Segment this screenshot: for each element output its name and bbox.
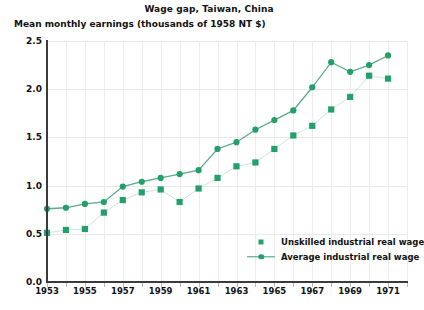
x-tick-mark (47, 283, 48, 287)
x-tick-label: 1955 (73, 286, 97, 296)
x-tick-mark (388, 283, 389, 287)
legend-line-circle-marker-icon (247, 251, 275, 263)
data-point-circle (177, 171, 183, 177)
data-point-circle (290, 107, 296, 113)
data-point-square (63, 227, 69, 233)
series-1 (44, 73, 391, 236)
legend-item-average[interactable]: Average industrial real wage (247, 249, 424, 264)
legend-label-average: Average industrial real wage (281, 252, 419, 262)
x-tick-mark (180, 283, 181, 287)
chart-legend: Unskilled industrial real wage Average i… (247, 234, 424, 264)
x-tick-mark (85, 283, 86, 287)
data-point-square (385, 76, 391, 82)
data-point-square (158, 186, 164, 192)
series-line (47, 55, 388, 208)
data-point-circle (328, 59, 334, 65)
data-point-square (309, 123, 315, 129)
legend-square-marker-icon (247, 236, 275, 248)
data-point-square (120, 197, 126, 203)
y-tick-label: 1.5 (8, 132, 42, 142)
series-line (47, 76, 388, 233)
data-point-circle (309, 84, 315, 90)
data-point-circle (120, 183, 126, 189)
legend-label-unskilled: Unskilled industrial real wage (281, 237, 424, 247)
data-point-circle (195, 167, 201, 173)
x-tick-mark (218, 283, 219, 287)
x-tick-mark (199, 283, 200, 287)
x-tick-label: 1969 (338, 286, 362, 296)
y-tick-label: 1.0 (8, 181, 42, 191)
x-axis-line (46, 281, 408, 283)
data-point-square (177, 199, 183, 205)
chart-subtitle: Mean monthly earnings (thousands of 1958… (14, 19, 266, 29)
data-point-square (233, 163, 239, 169)
x-tick-mark (274, 283, 275, 287)
x-tick-label: 1961 (187, 286, 211, 296)
data-point-square (290, 132, 296, 138)
x-tick-label: 1953 (35, 286, 59, 296)
series-2 (44, 52, 391, 211)
legend-item-unskilled[interactable]: Unskilled industrial real wage (247, 234, 424, 249)
y-axis-line (46, 40, 48, 283)
data-point-square (139, 189, 145, 195)
x-tick-mark (331, 283, 332, 287)
data-point-circle (214, 146, 220, 152)
x-tick-label: 1959 (149, 286, 173, 296)
x-tick-mark (237, 283, 238, 287)
x-tick-label: 1971 (376, 286, 400, 296)
data-point-circle (63, 205, 69, 211)
data-point-square (195, 185, 201, 191)
x-tick-mark (255, 283, 256, 287)
y-axis-tick-labels: 0.00.51.01.52.02.5 (0, 0, 42, 310)
data-point-circle (233, 139, 239, 145)
x-tick-label: 1957 (111, 286, 135, 296)
x-tick-label: 1965 (263, 286, 287, 296)
data-point-square (82, 226, 88, 232)
data-point-circle (385, 52, 391, 58)
x-tick-mark (312, 283, 313, 287)
data-point-circle (82, 201, 88, 207)
x-tick-mark (161, 283, 162, 287)
data-point-square (252, 159, 258, 165)
x-tick-mark (369, 283, 370, 287)
y-tick-label: 0.5 (8, 229, 42, 239)
data-point-circle (101, 199, 107, 205)
x-tick-label: 1963 (225, 286, 249, 296)
data-point-square (328, 106, 334, 112)
data-point-square (101, 209, 107, 215)
x-tick-mark (104, 283, 105, 287)
data-point-circle (139, 179, 145, 185)
y-tick-label: 2.0 (8, 84, 42, 94)
x-tick-mark (293, 283, 294, 287)
data-point-square (366, 73, 372, 79)
data-point-circle (347, 69, 353, 75)
data-point-square (347, 94, 353, 100)
x-tick-mark (142, 283, 143, 287)
x-tick-mark (66, 283, 67, 287)
data-point-circle (366, 62, 372, 68)
data-point-circle (252, 127, 258, 133)
chart-title: Wage gap, Taiwan, China (0, 4, 418, 14)
x-tick-mark (407, 283, 408, 287)
y-tick-label: 2.5 (8, 36, 42, 46)
data-point-square (214, 175, 220, 181)
x-tick-mark (123, 283, 124, 287)
x-tick-mark (350, 283, 351, 287)
data-point-square (271, 146, 277, 152)
data-point-circle (271, 117, 277, 123)
x-tick-label: 1967 (300, 286, 324, 296)
data-point-circle (158, 175, 164, 181)
